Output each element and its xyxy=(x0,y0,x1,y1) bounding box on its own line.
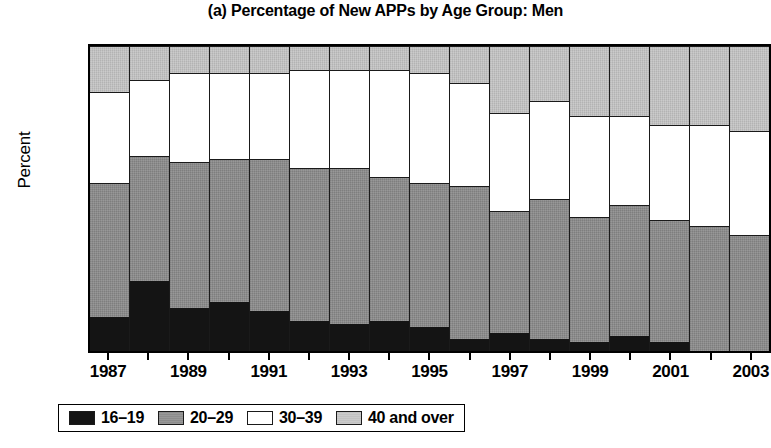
bar-segment-16-19[interactable] xyxy=(250,311,289,351)
bar-segment-30-39[interactable] xyxy=(170,73,209,161)
bar-segment-30-39[interactable] xyxy=(490,113,529,211)
bar-segment-20-29[interactable] xyxy=(370,177,409,320)
bar-segment-30-39[interactable] xyxy=(370,70,409,177)
bar-2001[interactable] xyxy=(650,46,690,351)
bar-segment-40-and-over[interactable] xyxy=(290,46,329,70)
bar-segment-16-19[interactable] xyxy=(490,333,529,351)
bar-segment-40-and-over[interactable] xyxy=(450,46,489,83)
bar-segment-20-29[interactable] xyxy=(570,217,609,342)
bar-segment-20-29[interactable] xyxy=(650,220,689,342)
bar-1998[interactable] xyxy=(530,46,570,351)
bar-segment-40-and-over[interactable] xyxy=(250,46,289,73)
bar-segment-16-19[interactable] xyxy=(610,336,649,351)
x-axis-tick-1992 xyxy=(289,353,329,399)
bar-segment-20-29[interactable] xyxy=(410,183,449,326)
bar-segment-40-and-over[interactable] xyxy=(370,46,409,70)
bar-1990[interactable] xyxy=(210,46,250,351)
bar-segment-30-39[interactable] xyxy=(130,80,169,156)
bar-segment-16-19[interactable] xyxy=(410,327,449,351)
bar-segment-30-39[interactable] xyxy=(330,70,369,168)
bar-segment-16-19[interactable] xyxy=(530,339,569,351)
bar-segment-40-and-over[interactable] xyxy=(570,46,609,116)
bar-segment-16-19[interactable] xyxy=(290,321,329,352)
bar-segment-30-39[interactable] xyxy=(290,70,329,168)
bar-segment-20-29[interactable] xyxy=(490,211,529,333)
bar-1993[interactable] xyxy=(330,46,370,351)
x-axis-tick-1999: 1999 xyxy=(570,353,610,399)
bar-segment-40-and-over[interactable] xyxy=(410,46,449,73)
bar-segment-16-19[interactable] xyxy=(210,302,249,351)
legend-item-20-29[interactable]: 20–29 xyxy=(158,409,233,427)
bar-segment-20-29[interactable] xyxy=(450,186,489,339)
x-axis-tick-1995: 1995 xyxy=(409,353,449,399)
legend-item-16-19[interactable]: 16–19 xyxy=(69,409,144,427)
bar-segment-16-19[interactable] xyxy=(650,342,689,351)
bar-1987[interactable] xyxy=(90,46,130,351)
x-axis-tick-1989: 1989 xyxy=(168,353,208,399)
bar-segment-16-19[interactable] xyxy=(450,339,489,351)
bar-segment-30-39[interactable] xyxy=(610,116,649,204)
bar-segment-40-and-over[interactable] xyxy=(690,46,729,125)
bar-segment-16-19[interactable] xyxy=(90,317,129,351)
bar-1996[interactable] xyxy=(450,46,490,351)
bar-1994[interactable] xyxy=(370,46,410,351)
bar-segment-16-19[interactable] xyxy=(330,324,369,351)
bar-segment-40-and-over[interactable] xyxy=(650,46,689,125)
legend-item-30-39[interactable]: 30–39 xyxy=(247,409,322,427)
bar-segment-30-39[interactable] xyxy=(570,116,609,217)
bar-segment-40-and-over[interactable] xyxy=(90,46,129,92)
bar-2002[interactable] xyxy=(690,46,730,351)
bar-segment-16-19[interactable] xyxy=(370,321,409,352)
bar-segment-20-29[interactable] xyxy=(690,226,729,351)
bar-1999[interactable] xyxy=(570,46,610,351)
bar-segment-20-29[interactable] xyxy=(250,159,289,312)
bar-segment-20-29[interactable] xyxy=(610,205,649,336)
bar-segment-30-39[interactable] xyxy=(730,131,769,235)
plot-area xyxy=(88,44,771,353)
bar-segment-40-and-over[interactable] xyxy=(210,46,249,73)
x-axis-tick-1987: 1987 xyxy=(88,353,128,399)
bar-segment-20-29[interactable] xyxy=(530,199,569,339)
bar-segment-40-and-over[interactable] xyxy=(130,46,169,80)
bar-segment-20-29[interactable] xyxy=(290,168,329,321)
bar-1995[interactable] xyxy=(410,46,450,351)
bar-segment-30-39[interactable] xyxy=(450,83,489,187)
legend-label: 20–29 xyxy=(190,409,233,427)
bar-segment-30-39[interactable] xyxy=(210,73,249,158)
bar-segment-30-39[interactable] xyxy=(690,125,729,226)
bar-segment-30-39[interactable] xyxy=(530,101,569,199)
bar-1991[interactable] xyxy=(250,46,290,351)
bar-segment-40-and-over[interactable] xyxy=(730,46,769,131)
bar-segment-16-19[interactable] xyxy=(130,281,169,351)
bar-segment-30-39[interactable] xyxy=(650,125,689,220)
x-axis-tick-2002 xyxy=(691,353,731,399)
bar-segment-16-19[interactable] xyxy=(170,308,209,351)
bar-2000[interactable] xyxy=(610,46,650,351)
bar-2003[interactable] xyxy=(730,46,769,351)
bar-segment-16-19[interactable] xyxy=(570,342,609,351)
bar-segment-20-29[interactable] xyxy=(170,162,209,308)
bar-segment-40-and-over[interactable] xyxy=(170,46,209,73)
bar-segment-20-29[interactable] xyxy=(730,235,769,351)
bar-segment-20-29[interactable] xyxy=(210,159,249,302)
bar-segment-20-29[interactable] xyxy=(90,183,129,317)
bar-segment-40-and-over[interactable] xyxy=(610,46,649,116)
bar-segment-40-and-over[interactable] xyxy=(490,46,529,113)
x-axis-tick-label: 1995 xyxy=(411,362,448,382)
bar-segment-30-39[interactable] xyxy=(250,73,289,158)
bar-segment-20-29[interactable] xyxy=(130,156,169,281)
bar-segment-30-39[interactable] xyxy=(410,73,449,183)
bar-1992[interactable] xyxy=(290,46,330,351)
bar-segment-40-and-over[interactable] xyxy=(530,46,569,101)
x-axis-tick-2000 xyxy=(610,353,650,399)
bar-segment-40-and-over[interactable] xyxy=(330,46,369,70)
bar-1989[interactable] xyxy=(170,46,210,351)
bar-1997[interactable] xyxy=(490,46,530,351)
bar-1988[interactable] xyxy=(130,46,170,351)
bar-segment-20-29[interactable] xyxy=(330,168,369,324)
x-axis-tick-mark xyxy=(107,353,109,360)
x-axis-tick-label: 1991 xyxy=(250,362,287,382)
legend-item-40-and-over[interactable]: 40 and over xyxy=(336,409,454,427)
bar-segment-30-39[interactable] xyxy=(90,92,129,184)
x-axis-tick-1994 xyxy=(369,353,409,399)
